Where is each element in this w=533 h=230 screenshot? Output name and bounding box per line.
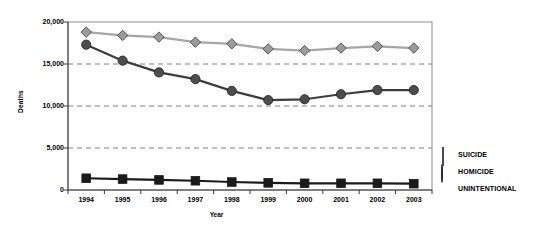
- y-axis-tick-label: 0: [30, 186, 64, 193]
- data-point-suicide: [190, 37, 200, 47]
- data-point-unintentional: [82, 174, 91, 183]
- data-point-homicide: [154, 68, 163, 77]
- data-point-homicide: [82, 40, 91, 49]
- y-axis-tick-label: 15,000: [30, 60, 64, 67]
- data-point-homicide: [227, 86, 236, 95]
- x-axis-tick-label: 1999: [248, 196, 288, 203]
- series-line-suicide: [86, 32, 414, 50]
- y-axis-tick-label: 10,000: [30, 102, 64, 109]
- y-axis-title: Deaths: [17, 72, 24, 132]
- circle-icon-shape: [441, 164, 443, 183]
- legend-item[interactable]: SUICIDE: [440, 146, 532, 163]
- x-axis-tick-label: 2000: [285, 196, 325, 203]
- y-axis-tick-labels: 05,00010,00015,00020,000: [28, 0, 64, 230]
- x-axis-tick-label: 1994: [66, 196, 106, 203]
- series-line-unintentional: [86, 178, 414, 183]
- x-axis-tick-label: 1998: [212, 196, 252, 203]
- data-point-homicide: [409, 85, 418, 94]
- x-axis-tick-label: 1995: [103, 196, 143, 203]
- data-point-unintentional: [118, 175, 127, 184]
- data-point-homicide: [336, 90, 345, 99]
- legend-item[interactable]: HOMICIDE: [440, 163, 532, 180]
- data-point-suicide: [372, 41, 382, 51]
- data-point-unintentional: [155, 176, 164, 185]
- chart-legend: SUICIDEHOMICIDEUNINTENTIONAL: [440, 146, 532, 197]
- x-axis-title: Year: [0, 211, 433, 218]
- data-point-suicide: [154, 32, 164, 42]
- data-point-homicide: [373, 85, 382, 94]
- data-point-unintentional: [410, 179, 419, 188]
- data-point-suicide: [263, 44, 273, 54]
- x-axis-tick-label: 1996: [139, 196, 179, 203]
- data-point-suicide: [409, 43, 419, 53]
- data-point-homicide: [264, 96, 273, 105]
- data-point-suicide: [117, 30, 127, 40]
- square-icon: [440, 182, 453, 195]
- chart-container: Deaths 05,00010,00015,00020,000 19941995…: [0, 0, 533, 230]
- data-point-homicide: [300, 95, 309, 104]
- data-point-homicide: [118, 56, 127, 65]
- series-line-homicide: [86, 45, 414, 100]
- data-point-unintentional: [373, 179, 382, 188]
- legend-item[interactable]: UNINTENTIONAL: [440, 180, 532, 197]
- x-axis-tick-label: 2002: [357, 196, 397, 203]
- x-axis-tick-label: 2001: [321, 196, 361, 203]
- diamond-icon: [440, 148, 453, 161]
- legend-label: SUICIDE: [458, 151, 487, 158]
- data-point-unintentional: [264, 179, 273, 188]
- data-point-suicide: [81, 27, 91, 37]
- data-point-homicide: [191, 75, 200, 84]
- legend-label: HOMICIDE: [458, 168, 494, 175]
- y-axis-tick-label: 20,000: [30, 18, 64, 25]
- data-point-unintentional: [228, 178, 237, 187]
- y-axis-tick-label: 5,000: [30, 144, 64, 151]
- data-point-suicide: [336, 43, 346, 53]
- x-axis-tick-label: 1997: [175, 196, 215, 203]
- x-axis-tick-label: 2003: [394, 196, 434, 203]
- data-point-suicide: [227, 39, 237, 49]
- diamond-icon-shape: [442, 147, 444, 166]
- data-point-unintentional: [191, 176, 200, 185]
- legend-label: UNINTENTIONAL: [458, 185, 516, 192]
- data-point-unintentional: [337, 179, 346, 188]
- data-point-suicide: [299, 45, 309, 55]
- data-point-unintentional: [300, 179, 309, 188]
- circle-icon: [440, 165, 453, 178]
